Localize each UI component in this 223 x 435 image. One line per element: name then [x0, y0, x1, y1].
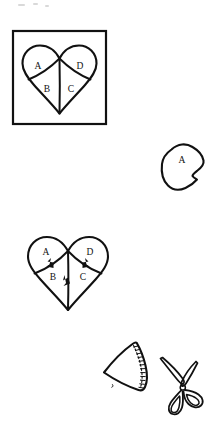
- scan-artifact-specks: [18, 3, 49, 7]
- panel-2-region: [156, 138, 210, 194]
- panel-4-region: [100, 340, 208, 420]
- panel-3-region: [24, 233, 112, 314]
- panel-1-region: [10, 28, 109, 127]
